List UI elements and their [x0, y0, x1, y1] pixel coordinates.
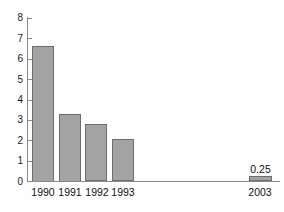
y-tick-label-1-text: 1 — [6, 156, 23, 166]
y-tick-label-0-text: 0 — [6, 177, 23, 187]
bar-chart: 0 1 2 3 4 5 6 7 8 0.25 1990 1991 1992 19… — [0, 0, 284, 212]
data-label-2003: 0.25 — [241, 163, 280, 175]
y-tick-mark-8 — [28, 18, 32, 19]
bar-1991 — [59, 114, 81, 182]
y-tick-label-6: 6 — [6, 54, 23, 64]
y-tick-label-6-text: 6 — [6, 54, 23, 64]
bar-1992 — [85, 124, 107, 181]
bar-1990 — [32, 46, 54, 182]
y-tick-label-1: 1 — [6, 156, 23, 166]
y-tick-label-5: 5 — [6, 75, 23, 85]
y-tick-label-2: 2 — [6, 136, 23, 146]
y-tick-label-4: 4 — [6, 95, 23, 105]
bar-1993 — [112, 139, 134, 182]
y-tick-label-7: 7 — [6, 34, 23, 44]
y-tick-label-4-text: 4 — [6, 95, 23, 105]
y-tick-label-8: 8 — [6, 13, 23, 23]
y-tick-label-5-text: 5 — [6, 75, 23, 85]
y-tick-label-3-text: 3 — [6, 115, 23, 125]
y-tick-label-8-text: 8 — [6, 13, 23, 23]
x-tick-label-2003: 2003 — [243, 186, 277, 198]
y-tick-label-0: 0 — [6, 177, 23, 187]
y-tick-mark-7 — [28, 38, 32, 39]
x-tick-label-1993: 1993 — [106, 186, 140, 198]
x-axis-line — [27, 181, 280, 182]
y-tick-label-2-text: 2 — [6, 136, 23, 146]
y-tick-label-3: 3 — [6, 115, 23, 125]
y-tick-label-7-text: 7 — [6, 34, 23, 44]
